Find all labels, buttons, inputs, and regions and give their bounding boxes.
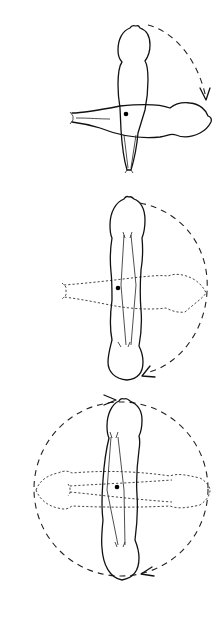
rotation-arc	[148, 25, 206, 98]
rotation-arc	[140, 203, 207, 373]
rotation-circle	[34, 402, 208, 576]
arrowhead-bottom-icon	[141, 567, 154, 576]
panel-1	[70, 25, 211, 173]
body-vertical	[102, 399, 142, 580]
panel-3	[34, 395, 210, 580]
panel-2	[62, 197, 207, 380]
rotation-diagram	[0, 0, 224, 619]
ghost-body-horizontal-b	[70, 480, 172, 502]
pivot-dot	[115, 485, 120, 490]
pivot-dot	[116, 286, 121, 291]
body-vertical	[108, 197, 145, 380]
pivot-dot	[124, 112, 129, 117]
arrowhead-icon	[142, 366, 155, 377]
